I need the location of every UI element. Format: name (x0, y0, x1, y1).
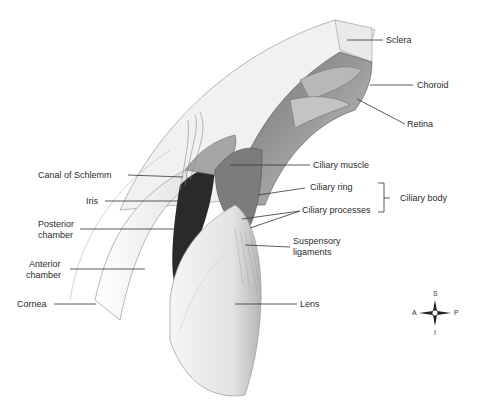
compass-posterior-label: P (454, 309, 459, 316)
label-retina: Retina (407, 119, 433, 130)
eye-anatomy-diagram: Sclera Choroid Retina Canal of Schlemm I… (0, 0, 477, 407)
compass-anterior-label: A (412, 309, 417, 316)
label-choroid: Choroid (417, 80, 449, 91)
label-ciliary-muscle: Ciliary muscle (313, 160, 369, 171)
label-posterior-chamber-line1: Posterior (38, 219, 74, 230)
label-canal-of-schlemm: Canal of Schlemm (38, 170, 112, 181)
label-suspensory-ligaments-line1: Suspensory (293, 236, 341, 247)
label-lens: Lens (300, 299, 320, 310)
label-iris: Iris (86, 196, 98, 207)
label-ciliary-ring: Ciliary ring (310, 182, 353, 193)
label-anterior-chamber-line1: Anterior (29, 259, 61, 270)
label-anterior-chamber-line2: chamber (26, 270, 61, 281)
label-sclera: Sclera (386, 35, 412, 46)
label-cornea: Cornea (17, 299, 47, 310)
label-posterior-chamber-line2: chamber (38, 230, 73, 241)
orientation-compass-icon (419, 300, 451, 326)
label-suspensory-ligaments-line2: ligaments (293, 247, 332, 258)
label-ciliary-body: Ciliary body (400, 193, 447, 204)
compass-superior-label: S (433, 290, 438, 297)
label-ciliary-processes: Ciliary processes (302, 205, 371, 216)
compass-inferior-label: I (434, 329, 436, 336)
